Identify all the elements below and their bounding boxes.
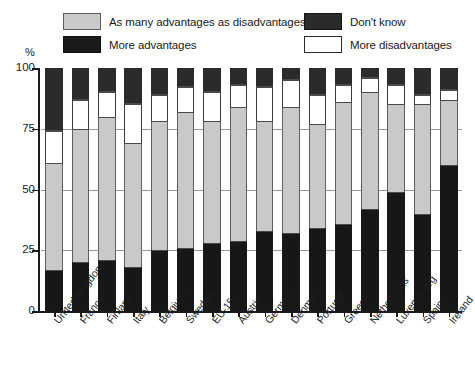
bar-segment-many	[72, 129, 90, 263]
bar-segment-many	[387, 104, 405, 191]
bar-segment-more-disadv	[203, 92, 221, 121]
bar-segment-more-disadv	[414, 95, 432, 105]
bar-segment-dont-know	[387, 68, 405, 85]
bar-segment-more-disadv	[282, 80, 300, 107]
bar-segment-many	[361, 92, 379, 209]
y-axis-tick-label: 75	[3, 123, 35, 135]
bar-segment-dont-know	[335, 68, 353, 85]
y-axis-unit-label: %	[25, 47, 35, 58]
bar-segment-more-adv	[440, 165, 458, 311]
bar-stack	[124, 68, 142, 311]
plot-area: 0255075100	[41, 68, 462, 311]
bar-segment-many	[335, 102, 353, 224]
bars-layer	[41, 68, 462, 311]
bar-segment-more-disadv	[387, 85, 405, 104]
bar-stack	[440, 68, 458, 311]
bar-segment-more-disadv	[335, 85, 353, 102]
bar-segment-many	[45, 163, 63, 270]
bar-segment-dont-know	[230, 68, 248, 85]
legend-swatch-icon-many	[63, 13, 101, 30]
bar-segment-dont-know	[361, 68, 379, 78]
legend-item-more-advantages: More advantages	[63, 36, 196, 53]
legend-swatch-icon-more-disadvantages	[304, 36, 342, 53]
bar-stack	[177, 68, 195, 311]
bar-segment-dont-know	[124, 68, 142, 104]
bar-segment-many	[230, 107, 248, 241]
bar-segment-dont-know	[282, 68, 300, 80]
bar-segment-more-disadv	[45, 131, 63, 163]
bar-segment-more-disadv	[98, 92, 116, 116]
y-axis-tick-label: 25	[3, 244, 35, 256]
y-axis-line	[38, 68, 40, 311]
y-axis-tick-label: 50	[3, 184, 35, 196]
y-axis-tick-mark	[32, 250, 38, 252]
bar-segment-many	[98, 117, 116, 260]
bar-segment-more-disadv	[72, 100, 90, 129]
legend-swatch-icon-more-advantages	[63, 36, 101, 53]
y-axis-tick-mark	[32, 190, 38, 192]
bar-segment-more-disadv	[309, 95, 327, 124]
bar-segment-more-adv	[151, 250, 169, 311]
bar-stack	[45, 68, 63, 311]
x-axis-labels: United KingdomFranceFinlandItalyBelgiumS…	[0, 311, 472, 392]
bar-segment-more-disadv	[256, 87, 274, 121]
bar-segment-dont-know	[177, 68, 195, 87]
bar-stack	[309, 68, 327, 311]
bar-segment-dont-know	[72, 68, 90, 100]
bar-segment-many	[177, 112, 195, 248]
y-axis-tick-mark	[32, 129, 38, 131]
bar-segment-dont-know	[45, 68, 63, 131]
bar-stack	[335, 68, 353, 311]
legend-swatch-icon-dont-know	[304, 13, 342, 30]
bar-segment-more-disadv	[124, 104, 142, 143]
legend-label-many: As many advantages as disadvantages	[109, 16, 306, 28]
bar-segment-many	[414, 104, 432, 213]
bar-segment-more-disadv	[361, 78, 379, 93]
bar-segment-dont-know	[309, 68, 327, 95]
bar-segment-many	[309, 124, 327, 228]
bar-segment-dont-know	[98, 68, 116, 92]
bar-stack	[203, 68, 221, 311]
bar-segment-many	[124, 143, 142, 267]
bar-segment-more-disadv	[440, 90, 458, 100]
legend-item-more-disadvantages: More disadvantages	[304, 36, 452, 53]
y-axis-tick-mark	[32, 68, 38, 70]
legend-label-more-disadvantages: More disadvantages	[350, 39, 452, 51]
bar-segment-more-disadv	[151, 95, 169, 122]
bar-segment-dont-know	[203, 68, 221, 92]
bar-stack	[151, 68, 169, 311]
chart-legend: As many advantages as disadvantages More…	[0, 0, 472, 58]
bar-stack	[256, 68, 274, 311]
legend-item-as-many-advantages-as-disadvantages: As many advantages as disadvantages	[63, 13, 306, 30]
y-axis-tick-label: 100	[3, 62, 35, 74]
bar-segment-more-disadv	[230, 85, 248, 107]
bar-segment-dont-know	[256, 68, 274, 87]
bar-stack	[230, 68, 248, 311]
bar-segment-many	[282, 107, 300, 233]
bar-stack	[282, 68, 300, 311]
bar-segment-more-disadv	[177, 87, 195, 111]
bar-segment-dont-know	[440, 68, 458, 90]
bar-segment-many	[203, 121, 221, 243]
bar-segment-many	[151, 121, 169, 250]
bar-segment-many	[440, 100, 458, 166]
bar-segment-dont-know	[414, 68, 432, 95]
legend-label-more-advantages: More advantages	[109, 39, 196, 51]
bar-segment-dont-know	[151, 68, 169, 95]
legend-label-dont-know: Don't know	[350, 16, 406, 28]
legend-item-dont-know: Don't know	[304, 13, 406, 30]
bar-segment-many	[256, 121, 274, 230]
bar-stack	[361, 68, 379, 311]
